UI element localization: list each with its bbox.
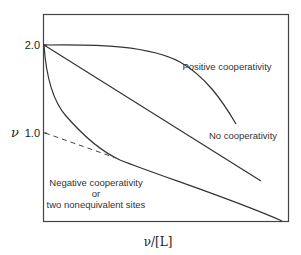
negative-or-label: or [92,188,100,199]
scatchard-plot: 2.0 1.0 ν ν/[L] Positive cooperativity N… [0,0,301,255]
y-axis-label: ν [11,125,19,140]
nonequivalent-sites-label: two nonequivalent sites [47,199,146,210]
x-axis-label: ν/[L] [144,235,173,249]
no-cooperativity-label: No cooperativity [209,130,277,141]
negative-cooperativity-label: Negative cooperativity [49,177,143,188]
y-tick-label-2: 2.0 [25,39,40,51]
plot-frame [44,15,289,222]
dashed-asymptote [45,133,116,158]
positive-cooperativity-curve [44,45,236,124]
y-tick-label-1: 1.0 [25,127,40,139]
positive-cooperativity-label: Positive cooperativity [182,61,271,72]
